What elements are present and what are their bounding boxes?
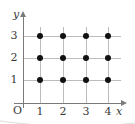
- x-tick-label-3: 3: [79, 106, 93, 118]
- x-tick-label-1: 1: [33, 106, 47, 118]
- coordinate-grid-figure: 3 2 1 1 2 3 4 y x O: [0, 0, 135, 124]
- data-point: [83, 55, 89, 61]
- y-tick-label-3: 3: [7, 30, 21, 42]
- data-point: [83, 77, 89, 83]
- data-point: [83, 33, 89, 39]
- y-axis-arrowhead-icon: [20, 11, 26, 17]
- origin-label: O: [13, 105, 22, 117]
- data-point: [60, 33, 66, 39]
- data-point: [37, 33, 43, 39]
- data-point: [37, 55, 43, 61]
- data-point: [105, 55, 111, 61]
- data-point: [60, 77, 66, 83]
- data-point: [105, 77, 111, 83]
- data-point: [105, 33, 111, 39]
- data-point: [60, 55, 66, 61]
- page-edge-curve-icon: [0, 119, 135, 124]
- y-tick-label-1: 1: [7, 74, 21, 86]
- x-tick-label-4: 4: [101, 106, 115, 118]
- y-axis-line: [23, 17, 24, 108]
- x-axis-line: [14, 103, 122, 104]
- data-point: [37, 77, 43, 83]
- x-tick-label-2: 2: [56, 106, 70, 118]
- y-tick-label-2: 2: [7, 52, 21, 64]
- y-axis-label: y: [13, 9, 19, 21]
- x-axis-label: x: [116, 106, 122, 118]
